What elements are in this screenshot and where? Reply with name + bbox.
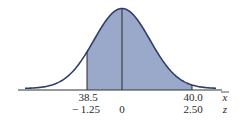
shaded-area — [87, 9, 192, 91]
xbar-symbol: x — [222, 91, 228, 103]
normal-curve-chart: 38.5 40.0 x − 1.25 0 2.50 z — [0, 0, 240, 121]
z-left-label: − 1.25 — [72, 103, 101, 115]
z-right-label: 2.50 — [183, 103, 203, 115]
xbar-left-label: 38.5 — [78, 91, 98, 103]
z-symbol: z — [222, 103, 228, 115]
z-mean-label: 0 — [119, 103, 125, 115]
xbar-right-label: 40.0 — [183, 91, 203, 103]
